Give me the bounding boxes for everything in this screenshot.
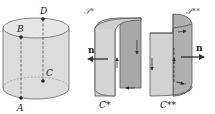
surface-label-s-double-star: 𝒮** bbox=[186, 7, 200, 16]
surface-s-double-star: n 𝒮** C** bbox=[150, 7, 204, 110]
curve-label-c-star: C* bbox=[99, 100, 111, 110]
surface-s-star: n 𝒮* C* bbox=[84, 7, 141, 110]
normal-label-right: n bbox=[196, 43, 203, 53]
point-c bbox=[41, 79, 45, 83]
point-a bbox=[19, 96, 23, 100]
label-d: D bbox=[39, 6, 47, 16]
curve-label-c-double-star: C** bbox=[160, 100, 176, 110]
point-d bbox=[41, 17, 45, 21]
point-b bbox=[19, 35, 23, 39]
cylinder: A B C D bbox=[3, 6, 69, 113]
surface-label-s-star: 𝒮* bbox=[84, 7, 94, 16]
normal-label-left: n bbox=[88, 45, 95, 55]
label-b: B bbox=[16, 24, 24, 34]
label-c: C bbox=[46, 68, 53, 78]
figure: A B C D n 𝒮* C* n 𝒮** C** bbox=[0, 0, 215, 114]
label-a: A bbox=[16, 103, 24, 113]
